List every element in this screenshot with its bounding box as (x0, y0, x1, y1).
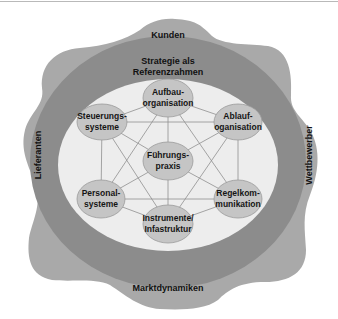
label-kunden: Kunden (148, 30, 188, 41)
node-label-personal: Personal- systeme (82, 188, 121, 210)
node-label-line1: Ablauf- (214, 111, 262, 122)
node-label-aufbau: Aufbau- organisation (142, 87, 193, 109)
label-lieferanten: Lieferanten (33, 125, 43, 185)
node-label-line2: Infastruktur (142, 224, 193, 235)
node-label-line2: systeme (77, 122, 127, 133)
node-label-line1: Steuerungs- (77, 111, 127, 122)
node-label-line1: Führungs- (147, 150, 189, 161)
node-label-line2: systeme (82, 199, 121, 210)
node-label-line2: organisation (142, 98, 193, 109)
node-label-line2: praxis (147, 161, 189, 172)
node-label-fuehrung: Führungs- praxis (147, 150, 189, 172)
node-label-line1: Regelkom- (215, 188, 260, 199)
node-label-line1: Personal- (82, 188, 121, 199)
node-label-instrumente: Instrumente/ Infastruktur (142, 213, 193, 235)
node-label-regel: Regelkom- munikation (215, 188, 260, 210)
label-strategie-line2: Referenzrahmen (128, 67, 208, 78)
node-label-line2: munikation (215, 199, 260, 210)
node-label-ablauf: Ablauf- oganisation (214, 111, 262, 133)
label-wettbewerber: Wettbewerber (304, 120, 314, 190)
label-marktdynamiken: Marktdynamiken (128, 283, 208, 294)
node-label-line1: Instrumente/ (142, 213, 193, 224)
label-strategie: Strategie als Referenzrahmen (128, 56, 208, 78)
label-strategie-line1: Strategie als (128, 56, 208, 67)
node-label-line2: oganisation (214, 122, 262, 133)
node-label-steuerung: Steuerungs- systeme (77, 111, 127, 133)
node-label-line1: Aufbau- (142, 87, 193, 98)
